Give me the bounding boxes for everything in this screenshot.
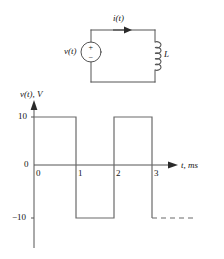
y-tick-label-neg10: −10 [12,213,26,222]
y-axis-arrow-icon [31,100,38,110]
waveform-trace [34,117,152,218]
source-minus-sign: − [89,54,94,62]
inductor-label: L [164,50,169,59]
current-arrow-icon [113,27,132,34]
figure-svg [0,0,224,259]
x-tick-label-3: 3 [154,169,159,178]
source-plus-sign: + [89,44,94,52]
x-tick-label-0: 0 [36,169,41,178]
plot-axes [34,108,172,248]
inductor-icon [155,42,161,71]
y-tick-label-0: 0 [24,160,29,169]
current-label: i(t) [113,14,124,23]
x-tick-label-1: 1 [78,169,83,178]
figure-root: v(t) + − i(t) L v(t), V t, ms 10 0 −10 0… [0,0,224,259]
y-tick-label-10: 10 [18,112,27,121]
y-axis-label: v(t), V [20,90,43,99]
x-axis-label: t, ms [181,161,198,170]
x-axis-arrow-icon [168,162,178,169]
x-tick-label-2: 2 [116,169,121,178]
source-label: v(t) [64,47,77,56]
